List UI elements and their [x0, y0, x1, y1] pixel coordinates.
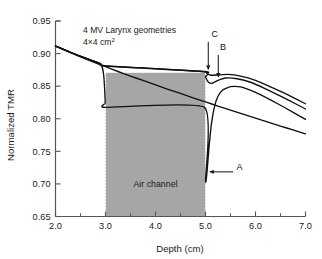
y-axis-title: Normalized TMR [5, 89, 16, 161]
x-tick-label: 5.0 [199, 221, 212, 231]
x-tick-label: 6.0 [249, 221, 262, 231]
x-tick-label: 7.0 [299, 221, 312, 231]
air-channel-region [106, 73, 206, 217]
y-tick-label: 0.75 [33, 147, 51, 157]
x-tick-label: 2.0 [49, 221, 62, 231]
y-tick-label: 0.70 [33, 179, 51, 189]
y-tick-label: 0.90 [33, 49, 51, 59]
annotation-title-line1: 4 MV Larynx geometries [83, 25, 176, 35]
chart-figure: 0.650.700.750.800.850.900.952.03.04.05.0… [0, 0, 322, 259]
annotation-curve-b: B [220, 42, 226, 52]
annotation-air-channel: Air channel [133, 179, 177, 189]
annotation-curve-c: C [212, 29, 219, 39]
x-tick-label: 3.0 [99, 221, 112, 231]
annotation-curve-a: A [237, 162, 243, 172]
air-channel-fill [106, 73, 206, 217]
y-tick-label: 0.80 [33, 114, 51, 124]
x-tick-label: 4.0 [149, 221, 162, 231]
tmr-depth-chart: 0.650.700.750.800.850.900.952.03.04.05.0… [0, 0, 322, 259]
y-tick-label: 0.95 [33, 16, 51, 26]
y-tick-label: 0.65 [33, 212, 51, 222]
annotation-title-line2: 4×4 cm2 [83, 36, 115, 47]
y-tick-label: 0.85 [33, 81, 51, 91]
x-axis-title: Depth (cm) [156, 243, 203, 254]
